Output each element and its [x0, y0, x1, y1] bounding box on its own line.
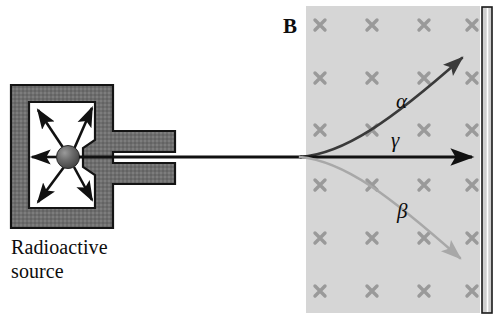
gamma-ray-label: γ	[391, 128, 399, 153]
radioactive-decay-magnetic-field-figure: B α γ β Radioactive source	[0, 0, 501, 320]
alpha-ray-label: α	[396, 89, 407, 114]
beta-ray-label: β	[397, 199, 407, 224]
radioactive-source-sphere	[57, 146, 80, 169]
detector-screen	[482, 7, 492, 313]
source-caption-line-1: Radioactive	[11, 236, 108, 260]
source-caption-line-2: source	[11, 260, 108, 284]
magnetic-field-label: B	[283, 14, 297, 39]
radioactive-source-caption: Radioactive source	[11, 236, 108, 283]
magnetic-field-region	[306, 6, 480, 313]
